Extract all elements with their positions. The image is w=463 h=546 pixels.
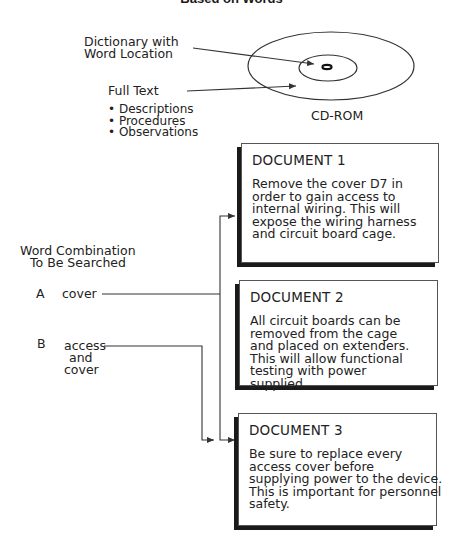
document-title: DOCUMENT 2 [250,289,344,305]
document-title: DOCUMENT 3 [249,422,343,438]
document-body: Be sure to replace every access cover be… [249,448,442,511]
document-2-card: DOCUMENT 2 All circuit boards can be rem… [239,280,438,386]
combination-a-word: cover [62,288,97,300]
combination-a-letter: A [36,288,45,300]
fulltext-list: • Descriptions • Procedures • Observatio… [108,104,198,139]
combination-b-letter: B [37,338,46,350]
document-body: All circuit boards can be removed from t… [250,315,409,390]
cd-rom-label: CD-ROM [311,110,363,122]
document-3-card: DOCUMENT 3 Be sure to replace every acce… [238,413,437,526]
document-title: DOCUMENT 1 [252,152,346,168]
fulltext-item: • Observations [108,127,198,139]
document-1-card: DOCUMENT 1 Remove the cover D7 in order … [241,143,439,263]
search-heading: Word Combination To Be Searched [20,245,136,269]
cd-rom-disc-icon [248,32,414,100]
fulltext-label: Full Text [108,85,159,97]
combination-b-words: access and cover [64,340,106,376]
dictionary-label: Dictionary with Word Location [84,36,179,60]
document-body: Remove the cover D7 in order to gain acc… [252,178,416,241]
